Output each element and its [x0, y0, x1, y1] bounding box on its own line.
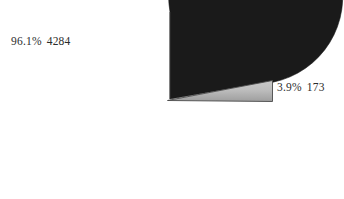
- slice-label-major: 96.1%4284: [11, 36, 71, 48]
- pie-chart: 96.1%4284 3.9%173: [0, 0, 344, 199]
- pie-chart-canvas: [0, 0, 344, 199]
- slice-label-major-value: 4284: [47, 35, 71, 47]
- slice-label-minor-value: 173: [307, 81, 325, 93]
- slice-label-minor: 3.9%173: [277, 82, 325, 94]
- slice-label-major-percent: 96.1%: [11, 35, 42, 47]
- slice-label-minor-percent: 3.9%: [277, 81, 302, 93]
